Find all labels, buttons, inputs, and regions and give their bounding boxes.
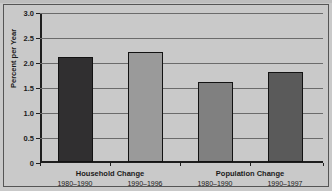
x-tick-mark (250, 163, 251, 166)
y-tick-mark (36, 38, 40, 39)
y-tick-mark (36, 88, 40, 89)
x-tick-mark (110, 163, 111, 166)
y-tick-mark (36, 63, 40, 64)
x-tick-mark (323, 163, 324, 166)
gridline (40, 38, 323, 39)
y-axis-label: Percent per Year (9, 29, 18, 88)
plot-area: 00.51.01.52.02.53.0 (40, 13, 323, 163)
category-label: 1980–1990 (197, 180, 232, 187)
y-tick-mark (36, 113, 40, 114)
y-tick-mark (36, 138, 40, 139)
bar (198, 82, 233, 162)
y-tick-label: 2.0 (24, 59, 34, 68)
y-tick-label: 2.5 (24, 34, 34, 43)
bar (58, 57, 93, 162)
y-tick-label: 3.0 (24, 9, 34, 18)
category-label: 1990–1996 (127, 180, 162, 187)
category-label: 1990–1997 (267, 180, 302, 187)
x-tick-mark (40, 163, 41, 166)
y-tick-label: 1.5 (24, 84, 34, 93)
x-tick-mark (180, 163, 181, 166)
group-label: Population Change (216, 169, 284, 178)
category-label: 1980–1990 (57, 180, 92, 187)
y-tick-mark (36, 13, 40, 14)
bar (268, 72, 303, 162)
group-label: Household Change (76, 169, 144, 178)
gridline (40, 13, 323, 14)
chart-figure: Percent per Year 00.51.01.52.02.53.0 Hou… (0, 0, 332, 191)
y-tick-label: 0 (30, 159, 34, 168)
chart-title-cropped (0, 0, 332, 3)
y-tick-label: 0.5 (24, 134, 34, 143)
bar (128, 52, 163, 162)
y-tick-label: 1.0 (24, 109, 34, 118)
